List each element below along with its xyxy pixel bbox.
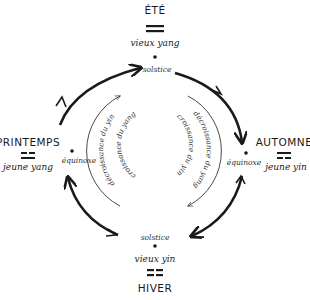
season-label-autumn: AUTOMNE [256,136,310,148]
trigram-young-yang-icon [21,152,35,159]
point-label-autumn: équinoxe [227,158,262,167]
node-winter: solstice vieux yin HIVER [135,233,176,294]
inner-texts: décroissance du yin croissance du yang d… [96,109,214,191]
text-croissance-yang: croissance du yang [114,109,138,181]
stage-label-autumn: jeune yin [263,162,307,172]
stage-label-summer: vieux yang [130,38,179,48]
trigram-old-yang-icon [146,25,164,32]
stage-label-winter: vieux yin [135,254,176,264]
point-label-summer: solstice [143,65,172,74]
season-label-winter: HIVER [138,282,173,294]
season-label-spring: PRINTEMPS [0,136,60,148]
season-label-summer: ÉTÉ [144,4,165,16]
svg-text:croissance du yang: croissance du yang [114,109,138,181]
trigram-old-yin-icon [147,269,163,276]
text-decroissance-yin: décroissance du yin [96,112,116,188]
solstice-point-icon [153,55,157,59]
equinox-point-icon [70,149,74,153]
trigram-young-yin-icon [277,152,291,159]
stage-label-spring: jeune yang [1,162,53,172]
point-label-winter: solstice [141,233,170,242]
equinox-point-icon [244,151,248,155]
point-label-spring: équinoxe [62,156,97,165]
node-summer: ÉTÉ vieux yang solstice [130,4,179,74]
node-autumn: équinoxe AUTOMNE jeune yin [227,136,310,172]
solstice-point-icon [153,244,157,248]
svg-text:décroissance du yin: décroissance du yin [96,112,116,188]
seasonal-cycle-diagram: décroissance du yin croissance du yang d… [0,0,310,300]
node-spring: PRINTEMPS jeune yang équinoxe [0,136,97,172]
chevron-spring-icon [56,97,66,107]
svg-text:croissance du yin: croissance du yin [175,112,196,179]
outer-cycle-arrows [56,68,245,236]
text-croissance-yin: croissance du yin [175,112,196,179]
